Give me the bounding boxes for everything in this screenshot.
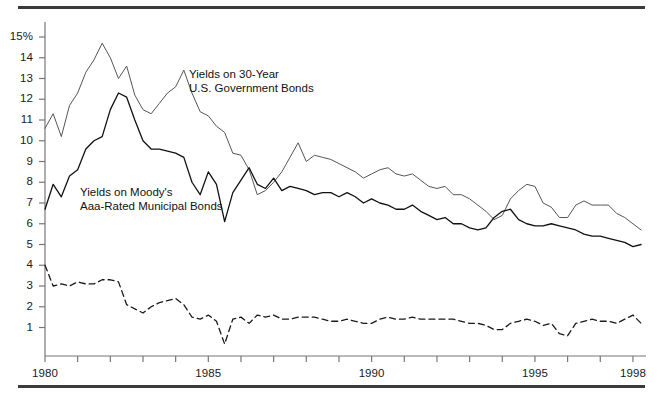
- chart-figure: 123456789101112131415% 19801985199019951…: [0, 0, 662, 402]
- y-axis-ticks: [39, 37, 45, 328]
- y-tick-label-14: 14: [0, 51, 33, 63]
- y-tick-label-5: 5: [0, 238, 33, 250]
- y-tick-label-12: 12: [0, 92, 33, 104]
- x-tick-label-1980: 1980: [22, 367, 68, 379]
- y-tick-label-15: 15%: [0, 30, 33, 42]
- y-tick-label-3: 3: [0, 279, 33, 291]
- annotation-gov-line-2: U.S. Government Bonds: [189, 82, 314, 96]
- series-line-1: [45, 93, 641, 247]
- y-tick-label-7: 7: [0, 196, 33, 208]
- annotation-muni-line-1: Yields on Moody's: [80, 186, 223, 200]
- y-tick-label-13: 13: [0, 72, 33, 84]
- y-tick-label-8: 8: [0, 175, 33, 187]
- series-annotation-government-bonds: Yields on 30-Year U.S. Government Bonds: [189, 68, 314, 95]
- series-line-2: [45, 265, 641, 344]
- y-tick-label-1: 1: [0, 321, 33, 333]
- x-tick-label-1985: 1985: [185, 367, 231, 379]
- y-tick-label-9: 9: [0, 155, 33, 167]
- series-annotation-municipal-bonds: Yields on Moody's Aaa-Rated Municipal Bo…: [80, 186, 223, 213]
- annotation-muni-line-2: Aaa-Rated Municipal Bonds: [80, 200, 223, 214]
- y-tick-label-6: 6: [0, 217, 33, 229]
- y-tick-label-11: 11: [0, 113, 33, 125]
- x-tick-label-1995: 1995: [512, 367, 558, 379]
- y-tick-label-4: 4: [0, 258, 33, 270]
- annotation-gov-line-1: Yields on 30-Year: [189, 68, 314, 82]
- x-tick-label-1990: 1990: [349, 367, 395, 379]
- x-axis-ticks: [45, 356, 633, 362]
- y-tick-label-2: 2: [0, 300, 33, 312]
- y-tick-label-10: 10: [0, 134, 33, 146]
- x-tick-label-1998: 1998: [610, 367, 656, 379]
